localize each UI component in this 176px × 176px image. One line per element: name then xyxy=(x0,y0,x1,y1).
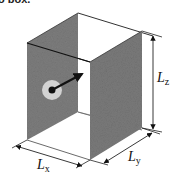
ly-label-main: L xyxy=(128,149,136,164)
ly-label-sub: y xyxy=(136,155,141,166)
lx-label: Lx xyxy=(37,158,50,174)
lx-label-sub: x xyxy=(45,163,50,174)
lz-label-sub: z xyxy=(165,76,169,87)
box-diagram xyxy=(0,0,176,176)
lx-dimension xyxy=(12,140,90,168)
lz-label: Lz xyxy=(157,71,169,87)
ly-label: Ly xyxy=(128,150,141,166)
left-wall xyxy=(27,13,78,140)
lz-label-main: L xyxy=(157,70,165,85)
lx-label-main: L xyxy=(37,157,45,172)
right-wall xyxy=(90,31,142,160)
